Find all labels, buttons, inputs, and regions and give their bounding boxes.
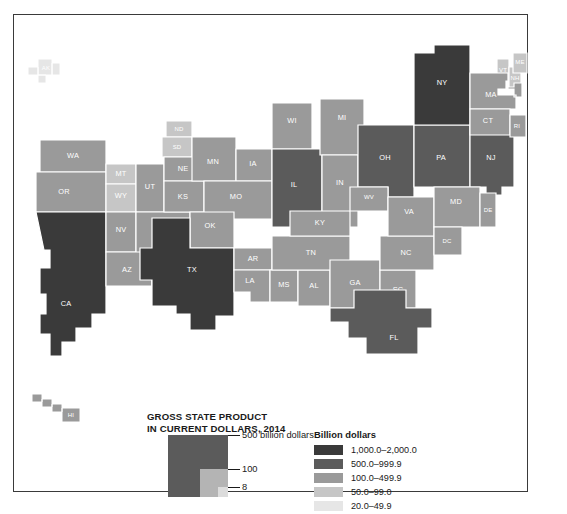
state-label-WA: WA xyxy=(67,151,79,160)
state-label-IL: IL xyxy=(291,180,298,189)
state-label-KY: KY xyxy=(315,218,325,227)
state-NC[interactable]: NC xyxy=(380,236,434,270)
state-OH[interactable]: OH xyxy=(358,125,414,197)
state-label-TN: TN xyxy=(306,248,316,257)
legend-title-line1: GROSS STATE PRODUCT xyxy=(147,411,417,423)
state-label-OK: OK xyxy=(204,221,215,230)
state-label-MT: MT xyxy=(115,169,126,178)
size-legend: 500 billion dollars 100 8 xyxy=(168,435,286,501)
state-VA[interactable]: VA xyxy=(388,197,434,236)
state-label-ME: ME xyxy=(515,59,524,65)
state-label-IA: IA xyxy=(249,159,256,168)
state-label-TX: TX xyxy=(187,265,197,274)
state-label-WY: WY xyxy=(115,191,127,200)
legend-row-2[interactable]: 500.0–999.9 xyxy=(314,458,417,470)
state-RI[interactable]: RI xyxy=(510,115,526,137)
legend-label-4: 50.0–99.0 xyxy=(351,487,391,497)
state-HI[interactable]: HI xyxy=(32,394,80,422)
state-WI[interactable]: WI xyxy=(272,103,312,149)
state-label-MI: MI xyxy=(338,113,347,122)
state-PA[interactable]: PA xyxy=(414,125,470,187)
state-label-IN: IN xyxy=(336,178,344,187)
state-ME[interactable]: ME xyxy=(513,53,527,73)
size-swatch-8 xyxy=(218,487,228,497)
state-label-RI: RI xyxy=(514,123,521,129)
state-label-ND: ND xyxy=(174,126,184,132)
legend-row-5[interactable]: 20.0–49.9 xyxy=(314,500,417,512)
legend-swatch-4 xyxy=(314,487,343,498)
state-KS[interactable]: KS xyxy=(164,181,204,212)
class-legend-title: Billion dollars xyxy=(314,429,417,440)
state-label-OR: OR xyxy=(58,187,70,196)
state-AR[interactable]: AR xyxy=(234,248,272,270)
legend-swatch-5 xyxy=(314,501,343,512)
size-tick-500 xyxy=(228,435,240,436)
state-label-NJ: NJ xyxy=(486,153,496,162)
map-frame: AK HI WA OR CA MT WY UT xyxy=(13,14,528,492)
state-CA[interactable]: CA xyxy=(36,212,106,356)
legend-label-1: 1,000.0–2,000.0 xyxy=(351,445,417,455)
legend-swatch-2 xyxy=(314,459,343,470)
state-label-MS: MS xyxy=(278,280,290,289)
legend-label-2: 500.0–999.9 xyxy=(351,459,402,469)
state-label-PA: PA xyxy=(436,153,446,162)
state-label-MN: MN xyxy=(207,157,219,166)
state-IA[interactable]: IA xyxy=(236,149,272,181)
state-label-NH: NH xyxy=(510,75,519,81)
state-label-FL: FL xyxy=(389,333,398,342)
state-label-CA: CA xyxy=(61,299,72,308)
state-label-AK: AK xyxy=(42,65,50,71)
size-tick-8 xyxy=(228,487,240,488)
state-AK[interactable]: AK xyxy=(28,59,60,83)
state-label-UT: UT xyxy=(145,182,156,191)
state-ND[interactable]: ND xyxy=(166,121,192,137)
state-NV[interactable]: NV xyxy=(106,212,136,252)
state-label-NY: NY xyxy=(437,78,448,87)
state-AL[interactable]: AL xyxy=(298,270,330,306)
state-UT[interactable]: UT xyxy=(136,164,164,212)
legend-row-3[interactable]: 100.0–499.9 xyxy=(314,472,417,484)
size-label-100: 100 xyxy=(242,464,258,474)
state-label-VA: VA xyxy=(404,207,414,216)
state-label-CT: CT xyxy=(483,116,494,125)
map-legend: GROSS STATE PRODUCT IN CURRENT DOLLARS, … xyxy=(147,411,417,503)
state-LA[interactable]: LA xyxy=(234,270,270,302)
state-WV[interactable]: WV xyxy=(350,187,388,211)
state-MN[interactable]: MN xyxy=(192,137,236,181)
state-DC[interactable]: DC xyxy=(434,227,462,255)
legend-swatch-1 xyxy=(314,445,343,456)
state-label-WI: WI xyxy=(287,116,296,125)
state-MT[interactable]: MT xyxy=(106,164,136,184)
legend-label-3: 100.0–499.9 xyxy=(351,473,402,483)
legend-row-4[interactable]: 50.0–99.0 xyxy=(314,486,417,498)
size-label-8: 8 xyxy=(242,482,247,492)
state-DE[interactable]: DE xyxy=(480,193,496,227)
state-CT[interactable]: CT xyxy=(470,109,510,135)
state-MS[interactable]: MS xyxy=(270,270,298,302)
state-label-MO: MO xyxy=(230,192,242,201)
legend-row-1[interactable]: 1,000.0–2,000.0 xyxy=(314,444,417,456)
state-OR[interactable]: OR xyxy=(36,172,106,212)
state-label-SD: SD xyxy=(173,144,182,150)
state-label-DC: DC xyxy=(442,238,452,244)
state-WA[interactable]: WA xyxy=(40,140,106,172)
state-label-AL: AL xyxy=(309,281,318,290)
state-label-DE: DE xyxy=(484,207,493,213)
state-WY[interactable]: WY xyxy=(106,184,136,212)
legend-swatch-3 xyxy=(314,473,343,484)
state-label-LA: LA xyxy=(245,276,254,285)
state-label-MD: MD xyxy=(450,197,462,206)
state-label-NE: NE xyxy=(178,164,189,173)
legend-label-5: 20.0–49.9 xyxy=(351,501,391,511)
state-label-AR: AR xyxy=(248,254,259,263)
state-label-OH: OH xyxy=(379,153,391,162)
state-KY[interactable]: KY xyxy=(290,211,350,236)
state-SD[interactable]: SD xyxy=(162,137,192,157)
size-label-500: 500 billion dollars xyxy=(242,430,314,440)
state-NY[interactable]: NY xyxy=(414,45,470,125)
state-label-KS: KS xyxy=(178,192,188,201)
state-MD[interactable]: MD xyxy=(434,187,480,227)
state-OK[interactable]: OK xyxy=(190,212,234,248)
state-label-AZ: AZ xyxy=(122,265,132,274)
state-label-WV: WV xyxy=(364,194,374,200)
